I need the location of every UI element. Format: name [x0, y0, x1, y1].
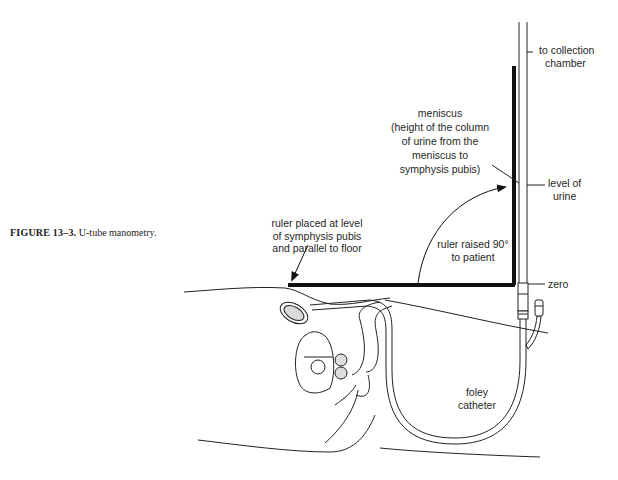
label-line: to collection: [539, 44, 594, 57]
label-line: meniscus to: [385, 148, 495, 162]
label-line: of urine from the: [385, 134, 495, 148]
label-meniscus: meniscus (height of the column of urine …: [385, 106, 495, 176]
label-line: ruler placed at level: [262, 217, 372, 230]
label-level-of-urine: level of urine: [548, 177, 581, 202]
horizontal-ruler: [288, 283, 515, 287]
label-line: and parallel to floor: [262, 242, 372, 255]
label-zero: zero: [548, 278, 568, 291]
label-ruler-raised: ruler raised 90° to patient: [432, 238, 514, 263]
label-to-collection-chamber: to collection chamber: [539, 44, 594, 69]
label-line: to patient: [432, 251, 514, 264]
figure-caption: FIGURE 13–3. U-tube manometry.: [10, 227, 156, 238]
patient-body-outline: [184, 287, 548, 457]
figure-number: FIGURE 13–3.: [10, 227, 76, 238]
label-line: chamber: [539, 57, 594, 70]
label-line: (height of the column: [385, 120, 495, 134]
figure-title: U-tube manometry.: [79, 227, 157, 238]
label-line: foley: [452, 386, 502, 399]
label-line: ruler raised 90°: [432, 238, 514, 251]
label-line: symphysis pubis): [385, 162, 495, 176]
label-line: of symphysis pubis: [262, 230, 372, 243]
label-line: meniscus: [385, 106, 495, 120]
rotation-arrow: [418, 187, 505, 283]
label-line: urine: [548, 190, 581, 203]
label-line: catheter: [452, 399, 502, 412]
label-foley-catheter: foley catheter: [452, 386, 502, 411]
label-line: level of: [548, 177, 581, 190]
label-ruler-placed: ruler placed at level of symphysis pubis…: [262, 217, 372, 255]
manometer-tube: [518, 22, 528, 319]
catheter-side-port: [526, 300, 543, 349]
